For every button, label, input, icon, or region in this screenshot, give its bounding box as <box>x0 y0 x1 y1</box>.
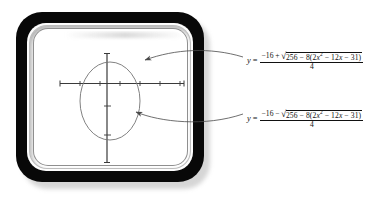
callout-upper-lhs: y <box>247 57 251 65</box>
callout-lower-fraction: −16 − √ 256 − 8(2x2 − 12x − 31) 4 <box>260 110 363 129</box>
radical-group: √ 256 − 8(2x2 − 12x − 31) <box>281 110 362 119</box>
callout-lower-branch: y = −16 − √ 256 − 8(2x2 − 12x − 31) 4 <box>247 110 363 129</box>
callout-lower-numerator: −16 − √ 256 − 8(2x2 − 12x − 31) <box>260 110 363 120</box>
numerator-sign: − <box>275 110 279 118</box>
callout-upper-numerator: −16 + √ 256 − 8(2x2 − 12x − 31) <box>260 52 363 62</box>
y-axis <box>104 53 110 163</box>
callout-lower-lhs: y <box>247 115 251 123</box>
radicand-tail: − 12 <box>323 111 339 120</box>
numerator-prefix: −16 <box>261 52 273 60</box>
graph-plot <box>35 31 185 164</box>
numerator-sign: + <box>275 52 279 60</box>
callout-upper-branch: y = −16 + √ 256 − 8(2x2 − 12x − 31) 4 <box>247 52 363 71</box>
ellipse-curve <box>80 62 140 140</box>
numerator-prefix: −16 <box>261 110 273 118</box>
graphing-calculator <box>16 12 208 187</box>
radical-group: √ 256 − 8(2x2 − 12x − 31) <box>281 52 362 61</box>
callout-upper-equals: = <box>253 57 258 65</box>
radicand-end: − 31) <box>342 53 361 62</box>
radicand-end: − 31) <box>342 111 361 120</box>
radicand-lead: 256 − 8(2 <box>286 111 317 120</box>
radicand: 256 − 8(2x2 − 12x − 31) <box>286 52 362 61</box>
radicand-lead: 256 − 8(2 <box>286 53 317 62</box>
callout-lower-denominator: 4 <box>310 121 314 129</box>
callout-lower-equals: = <box>253 115 258 123</box>
x-axis <box>60 80 184 86</box>
callout-upper-fraction: −16 + √ 256 − 8(2x2 − 12x − 31) 4 <box>260 52 363 71</box>
calculator-screen <box>35 31 185 164</box>
callout-upper-denominator: 4 <box>310 63 314 71</box>
radicand-tail: − 12 <box>323 53 339 62</box>
radicand: 256 − 8(2x2 − 12x − 31) <box>286 110 362 119</box>
figure-root: y = −16 + √ 256 − 8(2x2 − 12x − 31) 4 y … <box>0 0 373 199</box>
